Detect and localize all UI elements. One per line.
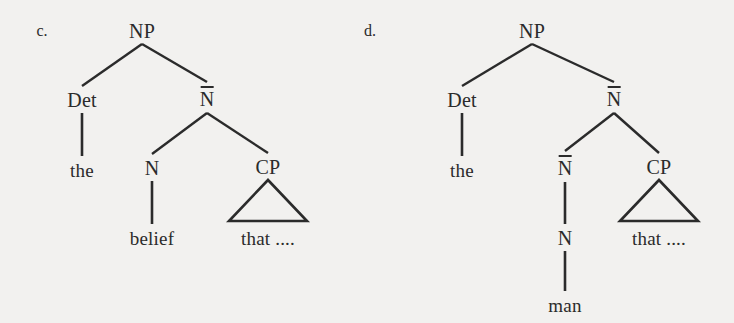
category-label: the [450, 160, 474, 181]
category-label: belief [130, 228, 174, 249]
tree-node-label: CP [256, 157, 281, 177]
tree-node-label: N [558, 228, 573, 248]
tree-node-label: N [145, 158, 160, 178]
tree-node-label: NP [129, 21, 155, 41]
tree-terminal-word: the [70, 161, 94, 180]
category-label: that .... [241, 228, 295, 249]
tree-node-label: Det [447, 90, 476, 110]
tree-terminal-word: the [450, 161, 474, 180]
tree-edge [82, 44, 142, 86]
category-label: man [548, 295, 581, 316]
tree-terminal-word: belief [130, 229, 174, 248]
tree-terminal-word: man [548, 296, 581, 315]
category-label: CP [256, 156, 281, 178]
category-label: Det [447, 89, 476, 111]
category-label: N [145, 157, 160, 179]
barred-category-label: N [558, 158, 573, 178]
example-marker: c. [36, 23, 47, 39]
example-marker: d. [364, 23, 376, 39]
tree-terminal-word: that .... [632, 229, 686, 248]
barred-category-label: N [607, 89, 622, 109]
tree-node-label: Det [67, 90, 96, 110]
tree-edge [207, 113, 268, 153]
tree-edge [614, 113, 659, 153]
category-label: NP [519, 20, 545, 42]
tree-edge [532, 44, 614, 82]
tree-edge [142, 44, 207, 82]
category-label: Det [67, 89, 96, 111]
category-label: the [70, 160, 94, 181]
tree-node-label: N [607, 89, 622, 109]
tree-edge [462, 44, 532, 86]
tree-edge [565, 113, 614, 151]
tree-branch-lines [0, 0, 734, 323]
constituent-triangle [620, 180, 698, 221]
syntax-tree-figure: c.NPDetNtheNCPbeliefthat ....d.NPDetNthe… [0, 0, 734, 323]
constituent-triangle [229, 180, 307, 221]
tree-node-label: N [200, 89, 215, 109]
category-label: that .... [632, 228, 686, 249]
category-label: N [558, 227, 573, 249]
tree-node-label: CP [647, 157, 672, 177]
tree-node-label: N [558, 158, 573, 178]
barred-category-label: N [200, 89, 215, 109]
category-label: NP [129, 20, 155, 42]
tree-terminal-word: that .... [241, 229, 295, 248]
tree-node-label: NP [519, 21, 545, 41]
category-label: CP [647, 156, 672, 178]
tree-edge [152, 113, 207, 154]
